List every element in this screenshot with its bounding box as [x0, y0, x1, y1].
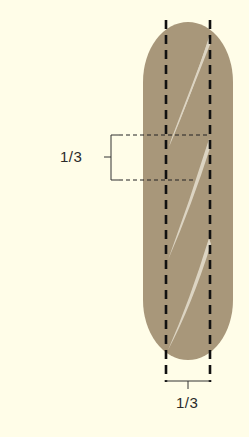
bottom-bracket [166, 380, 210, 389]
baguette-shape [143, 22, 233, 360]
side-bracket [104, 135, 119, 180]
side-fraction-label: 1/3 [60, 148, 82, 165]
bottom-fraction-label: 1/3 [176, 394, 198, 411]
baguette-diagram [0, 0, 249, 437]
